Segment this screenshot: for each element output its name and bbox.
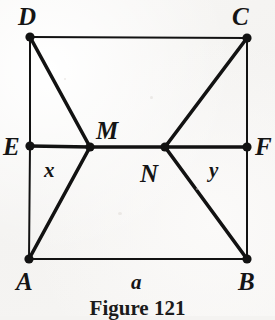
measure-label-a: a [131, 272, 142, 293]
vertex-dot-c [242, 33, 251, 42]
measure-label-x: x [44, 160, 55, 181]
side-DC [30, 37, 247, 38]
midline-EM [30, 146, 90, 147]
vertex-label-f: F [255, 134, 272, 159]
vertex-label-n: N [140, 161, 158, 186]
vertex-label-m: M [96, 118, 118, 143]
vertex-dot-a [24, 254, 33, 263]
diagonal-DM [30, 37, 90, 147]
vertex-dot-b [242, 254, 251, 263]
vertex-dot-d [25, 32, 34, 41]
vertex-label-d: D [18, 4, 36, 29]
paper-speck [150, 96, 153, 99]
vertex-dot-e [25, 141, 34, 150]
side-EA [29, 146, 30, 259]
paper-speck [64, 78, 66, 80]
vertex-label-e: E [3, 134, 20, 159]
measure-label-y: y [209, 160, 218, 181]
vertex-label-b: B [238, 269, 255, 294]
vertex-label-c: C [232, 4, 249, 29]
segment-layer [29, 37, 247, 259]
diagonal-NB [165, 147, 247, 259]
figure-caption: Figure 121 [0, 298, 275, 319]
vertex-dot-m [85, 142, 94, 151]
vertex-label-a: A [16, 269, 33, 294]
paper-speck [196, 188, 198, 190]
diagonal-CN [165, 38, 247, 147]
vertex-dot-f [242, 142, 251, 151]
paper-speck [118, 212, 122, 215]
vertex-dot-n [160, 142, 169, 151]
diagonal-MA [29, 147, 90, 259]
